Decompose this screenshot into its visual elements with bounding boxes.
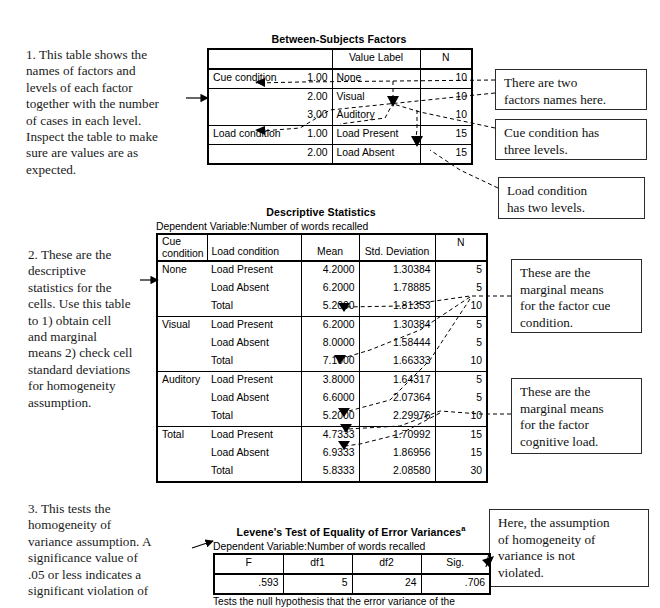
desc-cell-sd: 1.70992 xyxy=(359,427,435,446)
table-row: .593 5 24 .706 xyxy=(214,574,490,594)
desc-cell-n: 10 xyxy=(435,408,487,427)
desc-cell-mean: 3.8000 xyxy=(301,372,359,391)
desc-cell-mean: 6.2000 xyxy=(301,280,359,298)
callout-two-factor-names: There are two factors names here. xyxy=(495,69,647,110)
desc-cell-cue xyxy=(157,335,207,353)
levene-header-f: F xyxy=(214,554,283,574)
desc-cell-cue: None xyxy=(157,261,207,280)
desc-cell-load: Load Present xyxy=(207,427,301,446)
table-row: AuditoryLoad Present3.80001.643175 xyxy=(157,372,487,391)
desc-cell-cue xyxy=(157,463,207,482)
descriptive-statistics-table: Cue condition Load condition Mean Std. D… xyxy=(156,233,488,483)
levene-value-df1: 5 xyxy=(283,574,352,594)
desc-header-mean: Mean xyxy=(301,234,359,261)
desc-cell-n: 5 xyxy=(435,280,487,298)
desc-cell-n: 5 xyxy=(435,372,487,391)
desc-cell-load: Total xyxy=(207,463,301,482)
table-row: NoneLoad Present4.20001.303845 xyxy=(157,261,487,280)
callout-load-two-levels: Load condition has two levels. xyxy=(498,177,645,219)
desc-cell-n: 5 xyxy=(435,317,487,336)
bsf-cell-factor xyxy=(208,107,288,126)
levene-test-footnote: Tests the null hypothesis that the error… xyxy=(213,596,489,608)
annotation-note-1: 1. This table shows the names of factors… xyxy=(26,47,202,178)
desc-cell-mean: 6.2000 xyxy=(301,317,359,336)
desc-cell-mean: 6.6000 xyxy=(301,390,359,408)
desc-cell-cue: Visual xyxy=(157,317,207,336)
levene-title-text: Levene's Test of Equality of Error Varia… xyxy=(237,526,462,538)
desc-cell-sd: 1.58444 xyxy=(359,335,435,353)
desc-cell-load: Total xyxy=(207,353,301,372)
bsf-cell-label: Auditory xyxy=(332,107,420,126)
bsf-cell-factor: Load condition xyxy=(208,126,288,145)
levene-header-df1: df1 xyxy=(283,554,352,574)
table-row: Load Absent6.60002.073645 xyxy=(157,390,487,408)
desc-cell-n: 15 xyxy=(435,445,487,463)
desc-cell-n: 10 xyxy=(435,353,487,372)
desc-cell-cue: Auditory xyxy=(157,372,207,391)
desc-cell-cue xyxy=(157,298,207,317)
descriptive-statistics-block: Descriptive Statistics Dependent Variabl… xyxy=(156,206,486,483)
bsf-header-blank xyxy=(208,49,332,69)
desc-cell-sd: 1.30384 xyxy=(359,261,435,280)
levene-test-title: Levene's Test of Equality of Error Varia… xyxy=(213,524,489,538)
desc-cell-mean: 5.2000 xyxy=(301,408,359,427)
table-row: 2.00Visual10 xyxy=(208,89,472,108)
between-subjects-factors-body: Cue condition1.00None102.00Visual103.00A… xyxy=(208,69,472,164)
table-row: Total7.10001.6633310 xyxy=(157,353,487,372)
table-row: Load condition1.00Load Present15 xyxy=(208,126,472,145)
levene-value-f: .593 xyxy=(214,574,283,594)
bsf-cell-n: 10 xyxy=(420,69,472,89)
desc-cell-sd: 1.81353 xyxy=(359,298,435,317)
descriptive-statistics-body: NoneLoad Present4.20001.303845Load Absen… xyxy=(157,261,487,482)
desc-cell-load: Load Absent xyxy=(207,335,301,353)
levene-test-block: Levene's Test of Equality of Error Varia… xyxy=(213,524,489,608)
between-subjects-factors-title: Between-Subjects Factors xyxy=(207,33,471,45)
desc-cell-sd: 1.64317 xyxy=(359,372,435,391)
desc-cell-n: 10 xyxy=(435,298,487,317)
desc-cell-mean: 7.1000 xyxy=(301,353,359,372)
bsf-cell-value: 3.00 xyxy=(288,107,332,126)
levene-test-body: .593 5 24 .706 xyxy=(214,574,490,594)
desc-cell-cue: Total xyxy=(157,427,207,446)
bsf-cell-value: 1.00 xyxy=(288,126,332,145)
desc-cell-sd: 2.07364 xyxy=(359,390,435,408)
table-row: Load Absent8.00001.584445 xyxy=(157,335,487,353)
bsf-cell-label: Load Present xyxy=(332,126,420,145)
desc-cell-load: Load Present xyxy=(207,317,301,336)
desc-cell-cue xyxy=(157,445,207,463)
bsf-cell-value: 2.00 xyxy=(288,89,332,108)
desc-cell-mean: 8.0000 xyxy=(301,335,359,353)
bsf-cell-n: 10 xyxy=(420,107,472,126)
table-row: VisualLoad Present6.20001.303845 xyxy=(157,317,487,336)
desc-cell-n: 15 xyxy=(435,427,487,446)
desc-cell-cue xyxy=(157,390,207,408)
table-header-row: Value Label N xyxy=(208,49,472,69)
desc-cell-load: Load Present xyxy=(207,372,301,391)
callout-marginal-means-load: These are the marginal means for the fac… xyxy=(511,378,642,454)
callout-marginal-means-cue: These are the marginal means for the fac… xyxy=(511,259,642,333)
desc-header-n: N xyxy=(435,234,487,261)
between-subjects-factors-table: Value Label N Cue condition1.00None102.0… xyxy=(207,48,473,165)
desc-cell-sd: 1.78885 xyxy=(359,280,435,298)
desc-cell-n: 5 xyxy=(435,390,487,408)
desc-cell-mean: 6.9333 xyxy=(301,445,359,463)
levene-test-subtitle: Dependent Variable:Number of words recal… xyxy=(213,541,489,552)
desc-cell-load: Load Absent xyxy=(207,390,301,408)
table-header-row: Cue condition Load condition Mean Std. D… xyxy=(157,234,487,261)
desc-cell-n: 30 xyxy=(435,463,487,482)
bsf-cell-n: 15 xyxy=(420,145,472,165)
table-header-row: F df1 df2 Sig. xyxy=(214,554,490,574)
bsf-cell-factor xyxy=(208,89,288,108)
desc-cell-sd: 2.08580 xyxy=(359,463,435,482)
desc-cell-mean: 5.2000 xyxy=(301,298,359,317)
desc-cell-cue xyxy=(157,353,207,372)
desc-cell-n: 5 xyxy=(435,261,487,280)
desc-cell-load: Load Absent xyxy=(207,445,301,463)
desc-cell-load: Load Present xyxy=(207,261,301,280)
table-row: 3.00Auditory10 xyxy=(208,107,472,126)
desc-cell-sd: 1.86956 xyxy=(359,445,435,463)
bsf-cell-label: Visual xyxy=(332,89,420,108)
bsf-cell-value: 1.00 xyxy=(288,69,332,89)
desc-cell-mean: 5.8333 xyxy=(301,463,359,482)
